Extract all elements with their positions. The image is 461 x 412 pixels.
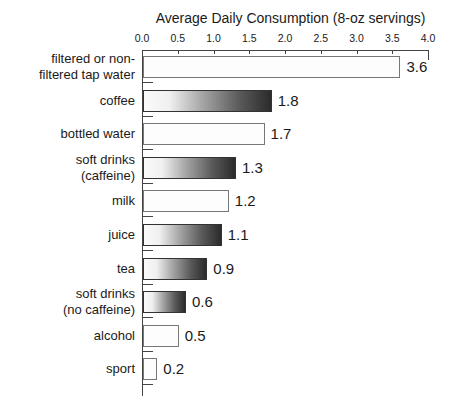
bar <box>143 90 272 112</box>
value-label: 1.2 <box>235 190 256 212</box>
value-label: 0.6 <box>192 291 213 313</box>
bar <box>143 325 179 347</box>
x-tick-label: 0.0 <box>135 32 150 44</box>
category-label: soft drinks(caffeine) <box>76 152 135 184</box>
x-tick-label: 0.5 <box>170 32 185 44</box>
value-label: 1.3 <box>242 157 263 179</box>
category-label: bottled water <box>61 126 135 142</box>
x-tick-label: 3.0 <box>349 32 364 44</box>
x-tick-mark <box>249 50 250 54</box>
x-tick-mark <box>392 50 393 54</box>
x-tick-mark <box>428 50 429 60</box>
x-tick-label: 3.5 <box>385 32 400 44</box>
x-tick-label: 2.0 <box>278 32 293 44</box>
x-tick-mark <box>214 50 215 54</box>
x-tick-label: 1.5 <box>242 32 257 44</box>
value-label: 3.6 <box>406 56 427 78</box>
bar <box>143 358 157 380</box>
x-tick-mark <box>321 50 322 54</box>
x-tick-mark <box>357 50 358 54</box>
category-separator <box>143 351 153 352</box>
category-separator <box>143 317 153 318</box>
category-separator <box>143 183 153 184</box>
x-tick-label: 2.5 <box>313 32 328 44</box>
category-separator <box>143 250 153 251</box>
category-label: soft drinks(no caffeine) <box>63 286 135 318</box>
value-label: 1.1 <box>228 224 249 246</box>
category-label: filtered or non-filtered tap water <box>39 51 135 83</box>
value-label: 1.7 <box>271 123 292 145</box>
category-separator <box>143 149 153 150</box>
category-label: alcohol <box>94 328 135 344</box>
bar <box>143 123 265 145</box>
category-separator <box>143 384 153 385</box>
category-label: coffee <box>100 93 135 109</box>
value-label: 0.5 <box>185 325 206 347</box>
value-label: 0.2 <box>163 358 184 380</box>
category-label: sport <box>106 361 135 377</box>
category-label: tea <box>117 261 135 277</box>
chart-title: Average Daily Consumption (8-oz servings… <box>0 10 461 26</box>
bar <box>143 258 207 280</box>
bar <box>143 224 222 246</box>
x-tick-label: 4.0 <box>421 32 436 44</box>
bar <box>143 157 236 179</box>
value-label: 1.8 <box>278 90 299 112</box>
category-label: juice <box>108 227 135 243</box>
category-separator <box>143 216 153 217</box>
category-separator <box>143 116 153 117</box>
bar <box>143 190 229 212</box>
x-tick-label: 1.0 <box>206 32 221 44</box>
value-label: 0.9 <box>213 258 234 280</box>
category-separator <box>143 284 153 285</box>
x-axis-tick-labels: 0.00.51.01.52.02.53.03.54.0 <box>0 32 461 46</box>
x-tick-mark <box>285 50 286 54</box>
bar <box>143 291 186 313</box>
category-separator <box>143 82 153 83</box>
bar <box>143 56 400 78</box>
x-tick-mark <box>178 50 179 54</box>
category-label: milk <box>112 193 135 209</box>
